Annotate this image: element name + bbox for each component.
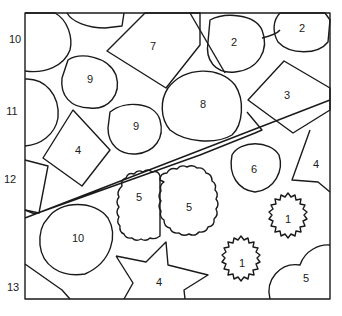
label-4-star-lower: 4 [156,276,162,288]
label-5-cloud: 5 [303,272,309,284]
region-11-circle [25,79,58,146]
label-9a: 9 [87,73,93,85]
label-10-top: 10 [9,33,21,45]
label-1a: 1 [285,213,291,225]
label-5a: 5 [136,191,142,203]
label-12: 12 [4,173,16,185]
label-13: 13 [7,281,19,293]
region-10-top [25,13,71,72]
label-2a: 2 [231,36,237,48]
label-10-lower: 10 [72,232,84,244]
region-2-connector [262,30,280,38]
label-8: 8 [200,98,206,110]
region-5-cloud [269,245,330,299]
region-4-star-right [292,130,330,192]
label-9b: 9 [133,120,139,132]
label-1b: 1 [239,257,245,269]
label-5b: 5 [186,201,192,213]
label-11: 11 [6,105,17,117]
region-belt-line [25,100,330,218]
label-7: 7 [150,40,156,52]
region-top-partial [67,13,124,28]
label-3: 3 [284,89,290,101]
puzzle-frame [25,13,330,299]
region-12-quad [25,160,48,213]
label-4-diamond: 4 [75,144,81,156]
label-4-star-right: 4 [313,158,319,170]
label-6: 6 [251,163,257,175]
puzzle-canvas: 10 7 2 2 9 11 8 3 9 4 6 4 12 5 5 1 10 1 … [0,0,342,316]
label-2b: 2 [299,22,305,34]
region-4-star-lower [116,242,208,299]
region-13-corner [25,264,70,299]
